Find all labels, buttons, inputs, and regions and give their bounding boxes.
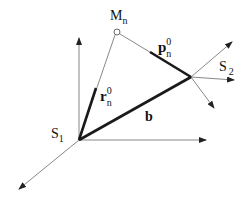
s2-axis-down xyxy=(191,77,214,108)
label-s2: S2 xyxy=(219,60,234,74)
diagram-canvas: Mn p0n r0n S2 S1 b xyxy=(0,0,248,201)
s1-axis-diagonal xyxy=(19,140,79,189)
label-r-n0: r0n xyxy=(100,89,115,104)
label-b-base: b xyxy=(145,109,153,124)
label-m-sub: n xyxy=(122,15,127,26)
vector-b xyxy=(79,77,191,140)
label-s1-base: S xyxy=(51,126,59,141)
label-s2-sub: 2 xyxy=(229,66,234,77)
label-s1-sub: 1 xyxy=(59,133,64,144)
label-r-base: r xyxy=(100,88,107,104)
label-s1: S1 xyxy=(51,127,64,141)
label-p-supsub: 0n xyxy=(166,40,174,54)
label-b: b xyxy=(145,110,153,124)
label-r-supsub: 0n xyxy=(107,89,115,103)
label-m-base: M xyxy=(110,8,122,23)
label-r-sub: n xyxy=(107,98,112,108)
label-p-sup: 0 xyxy=(166,37,171,47)
label-r-sup: 0 xyxy=(107,86,112,96)
diagram-svg xyxy=(0,0,248,201)
s2-axis-right xyxy=(191,77,234,80)
label-p-n0: p0n xyxy=(158,40,174,55)
point-m-n xyxy=(114,29,120,35)
label-s2-base: S xyxy=(219,59,227,74)
label-m-n: Mn xyxy=(110,9,127,23)
label-p-base: p xyxy=(158,39,166,55)
label-p-sub: n xyxy=(166,49,171,59)
